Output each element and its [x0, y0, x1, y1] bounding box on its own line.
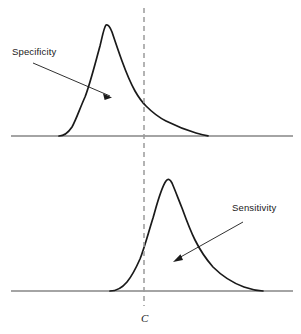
specificity-distribution-curve	[59, 25, 208, 136]
roc-specificity-sensitivity-figure: Specificity Sensitivity C	[0, 0, 301, 334]
sensitivity-leader-arrow	[173, 222, 243, 262]
bottom-panel	[11, 179, 293, 291]
specificity-label: Specificity	[12, 46, 57, 57]
sensitivity-distribution-curve	[110, 179, 263, 291]
specificity-leader-arrow	[33, 63, 112, 100]
top-panel	[11, 25, 293, 136]
sensitivity-label: Sensitivity	[232, 202, 277, 213]
cutoff-label: C	[141, 312, 149, 324]
